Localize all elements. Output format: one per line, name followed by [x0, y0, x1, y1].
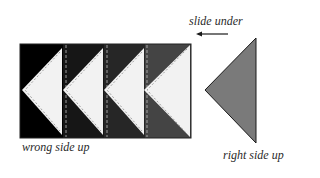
right-side-up-label: right side up: [223, 148, 284, 163]
wrong-side-up-strip: [20, 44, 191, 138]
wrong-side-up-label: wrong side up: [22, 140, 90, 155]
right-side-up-triangle: [205, 38, 256, 143]
slide-left-arrow-icon: [196, 32, 228, 37]
